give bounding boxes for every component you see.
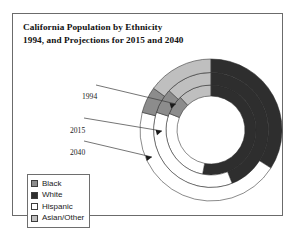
legend-item-hispanic: Hispanic bbox=[31, 201, 84, 213]
legend-label: Hispanic bbox=[42, 202, 73, 212]
legend: Black White Hispanic Asian/Other bbox=[27, 174, 90, 228]
legend-label: Black bbox=[42, 179, 62, 189]
chart-frame: California Population by Ethnicity 1994,… bbox=[12, 13, 283, 216]
ring-label-2015: 2015 bbox=[70, 126, 85, 135]
ring-label-1994: 1994 bbox=[82, 92, 97, 101]
legend-label: Asian/Other bbox=[42, 213, 84, 223]
legend-swatch-icon bbox=[31, 180, 38, 187]
legend-label: White bbox=[42, 190, 62, 200]
legend-swatch-icon bbox=[31, 192, 38, 199]
legend-swatch-icon bbox=[31, 215, 38, 222]
legend-item-black: Black bbox=[31, 178, 84, 190]
legend-item-white: White bbox=[31, 190, 84, 202]
legend-swatch-icon bbox=[31, 203, 38, 210]
concentric-donut-chart bbox=[135, 54, 287, 206]
chart-title: California Population by Ethnicity 1994,… bbox=[23, 21, 273, 46]
legend-item-asian-other: Asian/Other bbox=[31, 213, 84, 225]
donut-svg bbox=[135, 54, 287, 206]
ring-label-2040: 2040 bbox=[70, 148, 85, 157]
